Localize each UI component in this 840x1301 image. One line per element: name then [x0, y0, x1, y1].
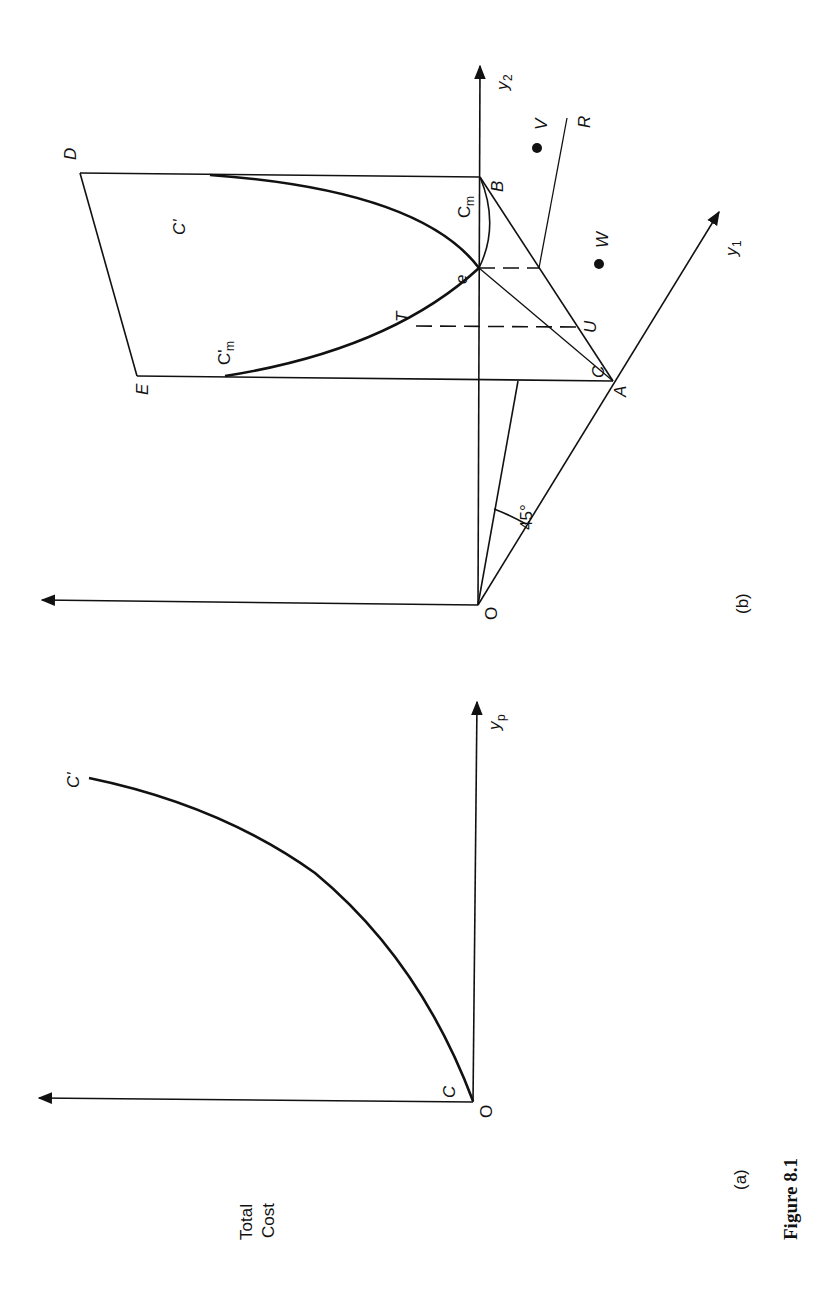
panel-b-y1-axis — [478, 212, 719, 605]
panel-b-cost-axis — [42, 600, 478, 605]
ray-R — [539, 118, 567, 268]
label-C-prime-a: C' — [64, 772, 83, 788]
panel-a-yp-axis — [473, 702, 477, 1102]
svg-text:C: C — [455, 206, 474, 218]
label-B: B — [488, 181, 507, 192]
svg-text:m: m — [223, 341, 237, 351]
svg-text:2: 2 — [501, 74, 515, 81]
panel-b-label: (b) — [733, 593, 752, 614]
label-45: 45° — [517, 504, 536, 530]
panel-b-y2-axis — [478, 66, 480, 605]
label-yp: y p — [485, 714, 508, 731]
panel-a: O C C' y p Total Cost (a) — [39, 702, 750, 1240]
svg-text:p: p — [494, 714, 508, 721]
panel-b: D E B A C U e T R V W C' C m C' m 45° O … — [42, 66, 752, 620]
figure-8-1: D E B A C U e T R V W C' C m C' m 45° O … — [0, 0, 840, 1301]
label-y2: y 2 — [493, 74, 515, 91]
label-C-m: C m — [455, 196, 477, 218]
figure-caption: Figure 8.1 — [780, 1158, 801, 1240]
edge-B-A — [480, 177, 613, 381]
label-U: U — [581, 320, 600, 333]
label-O-b: O — [482, 607, 501, 620]
dash-T-U — [416, 326, 578, 327]
edge-D-B — [80, 173, 480, 177]
label-E: E — [133, 383, 152, 395]
edge-D-E — [80, 173, 137, 376]
cost-curve-b — [210, 175, 479, 376]
label-D: D — [61, 148, 80, 160]
panel-a-cost-axis — [39, 1098, 473, 1102]
label-cost: Cost — [259, 1203, 278, 1238]
label-C: C — [589, 365, 608, 378]
label-C-prime: C' — [170, 219, 189, 235]
label-T: T — [393, 310, 412, 322]
label-y1: y 1 — [722, 240, 744, 257]
cost-curve-a — [89, 778, 473, 1101]
label-W: W — [593, 230, 612, 248]
panel-a-label: (a) — [731, 1169, 750, 1190]
label-total: Total — [237, 1204, 256, 1240]
label-e: e — [452, 275, 471, 284]
point-V — [532, 143, 542, 153]
label-R: R — [575, 116, 594, 128]
svg-text:1: 1 — [730, 240, 744, 247]
point-W — [594, 259, 604, 269]
label-V: V — [532, 117, 551, 130]
label-C-prime-m: C' m — [215, 341, 237, 365]
label-C-a: C — [440, 1085, 459, 1098]
label-O-a: O — [477, 1105, 496, 1118]
edge-E-A — [137, 376, 613, 381]
svg-text:m: m — [463, 196, 477, 206]
label-A: A — [611, 386, 630, 398]
